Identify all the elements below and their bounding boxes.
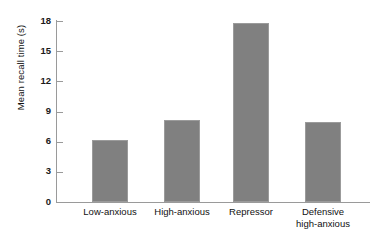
y-tick-mark — [57, 142, 63, 143]
y-tick-mark — [57, 81, 63, 82]
y-tick-label: 3 — [0, 165, 51, 177]
y-tick-label: 15 — [0, 45, 51, 57]
y-tick-label: 0 — [0, 196, 51, 208]
y-tick-mark — [57, 112, 63, 113]
y-tick-mark — [57, 202, 63, 203]
bar — [164, 120, 200, 202]
y-tick-mark — [57, 21, 63, 22]
bar-chart: Mean recall time (s) 0369121518 Low-anxi… — [0, 0, 385, 241]
y-tick-label: 12 — [0, 75, 51, 87]
bar — [233, 23, 269, 202]
y-tick-label: 9 — [0, 105, 51, 117]
y-tick-label: 6 — [0, 135, 51, 147]
y-tick-label: 18 — [0, 15, 51, 27]
y-tick-mark — [57, 51, 63, 52]
bar — [305, 122, 341, 202]
x-axis-line — [56, 202, 370, 203]
y-tick-mark — [57, 172, 63, 173]
x-axis-label: Defensive high-anxious — [269, 206, 377, 229]
bar — [92, 140, 128, 202]
